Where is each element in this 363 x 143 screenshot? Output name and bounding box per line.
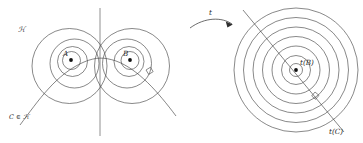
point-a-label: A (62, 49, 68, 58)
image-point-b-label: t(B) (300, 58, 314, 67)
image-curve-c-label: t(C) (329, 127, 343, 136)
conformal-mapping-figure: ℋ A B C ∈ ℋ t t(B) t(C) (0, 0, 363, 143)
image-point-b-dot (294, 68, 298, 72)
curve-c-label: C ∈ ℋ (9, 113, 31, 121)
point-b-dot (128, 58, 132, 62)
figure-background (0, 0, 363, 143)
map-t-label: t (209, 8, 212, 17)
point-a-dot (69, 58, 73, 62)
point-b-label: B (122, 49, 128, 58)
